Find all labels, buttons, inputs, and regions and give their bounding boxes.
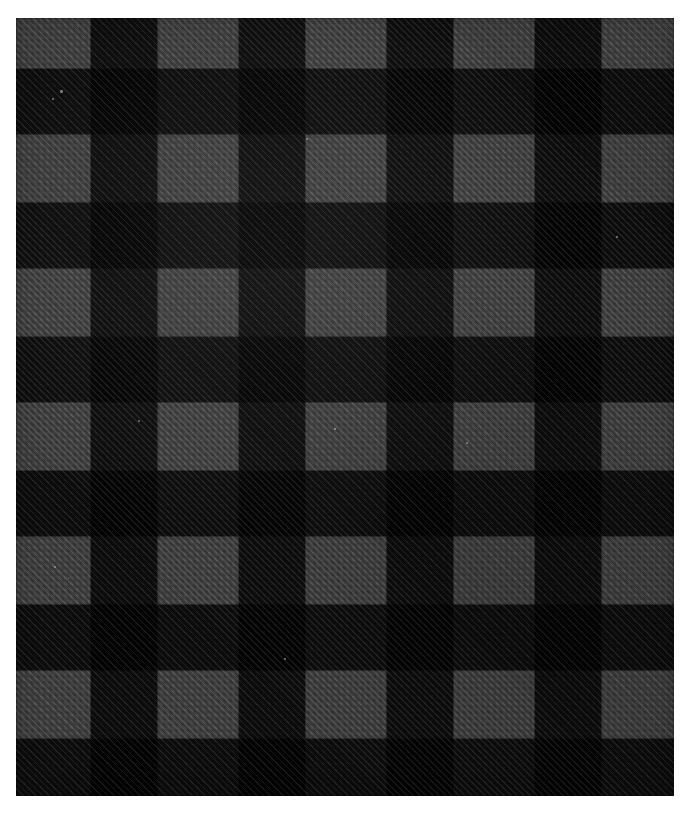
fabric-swatch: Close-up photograph of a woven buffalo c…	[16, 18, 674, 796]
edge-vignette-layer	[16, 18, 674, 796]
lint-fleck	[138, 420, 140, 422]
lint-fleck	[52, 98, 54, 100]
weft-stripes-layer	[16, 18, 674, 796]
twill-weave-layer	[16, 18, 674, 796]
lint-fleck	[306, 138, 308, 140]
thread-grain-layer	[16, 18, 674, 796]
warp-stripes-layer	[16, 18, 674, 796]
lint-fleck	[68, 578, 69, 579]
lint-fleck	[334, 428, 336, 430]
lint-fleck	[60, 90, 63, 93]
lint-fleck	[616, 236, 618, 238]
lint-fleck	[284, 658, 286, 660]
twill-highlight-layer	[16, 18, 674, 796]
lint-fleck	[54, 566, 56, 568]
page-canvas: Close-up photograph of a woven buffalo c…	[0, 0, 690, 816]
lighting-layer	[16, 18, 674, 796]
lint-fleck	[466, 442, 468, 444]
